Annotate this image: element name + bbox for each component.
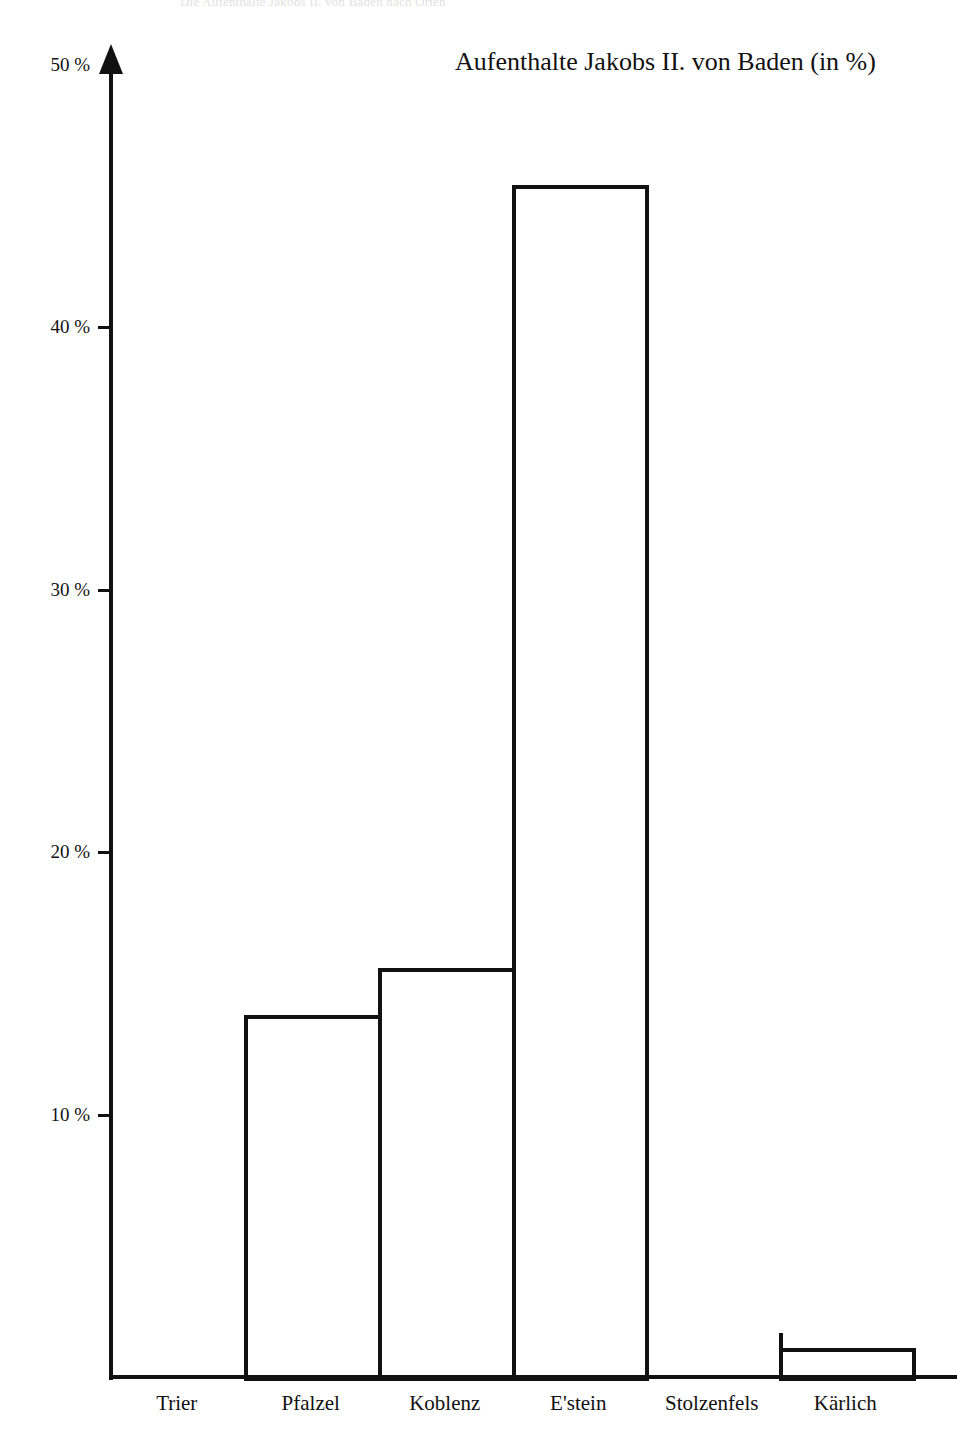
y-axis-tick-mark bbox=[98, 851, 112, 854]
bar bbox=[378, 968, 516, 1382]
bar-chart: Aufenthalte Jakobs II. von Baden (in %) … bbox=[0, 0, 957, 1450]
x-axis-category-label: Pfalzel bbox=[244, 1392, 379, 1415]
y-axis-tick-label: 40 % bbox=[22, 317, 90, 336]
y-axis-tick-label: 10 % bbox=[22, 1105, 90, 1124]
y-axis-tick-mark bbox=[98, 1114, 112, 1117]
bar bbox=[244, 1015, 383, 1381]
y-axis-tick-label: 30 % bbox=[22, 580, 90, 599]
x-axis-category-label: E'stein bbox=[512, 1392, 646, 1415]
x-axis-category-label: Trier bbox=[110, 1392, 244, 1415]
y-axis-line bbox=[109, 68, 113, 1380]
y-axis-tick-label: 20 % bbox=[22, 842, 90, 861]
bar bbox=[779, 1348, 917, 1381]
y-axis-tick-mark bbox=[98, 326, 112, 329]
bar bbox=[512, 185, 650, 1381]
x-axis-category-label: Kärlich bbox=[779, 1392, 913, 1415]
x-axis-category-label: Stolzenfels bbox=[645, 1392, 779, 1415]
up-arrow-icon bbox=[99, 44, 123, 74]
y-axis-tick-mark bbox=[98, 589, 112, 592]
y-axis-tick-label: 50 % bbox=[22, 55, 90, 74]
x-axis-category-label: Koblenz bbox=[378, 1392, 512, 1415]
chart-title: Aufenthalte Jakobs II. von Baden (in %) bbox=[455, 48, 876, 77]
